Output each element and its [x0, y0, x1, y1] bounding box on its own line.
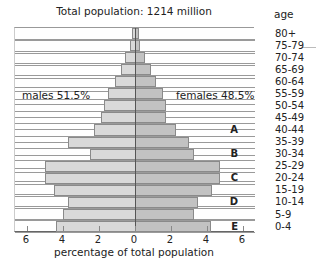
age-label: 40-44: [275, 124, 304, 137]
male-bar: [54, 185, 135, 196]
x-tick-label: 4: [198, 234, 214, 245]
x-tick: [135, 226, 136, 231]
female-bar: [135, 137, 189, 148]
female-bar: [135, 52, 145, 63]
male-bar: [104, 100, 135, 111]
x-tick: [207, 226, 208, 231]
age-label: 20-24: [275, 172, 304, 185]
male-bar: [101, 112, 135, 123]
age-label: 0-4: [275, 221, 291, 234]
row-marker-E: E: [228, 221, 238, 234]
x-tick-label: 2: [90, 234, 106, 245]
row-marker-A: A: [228, 124, 238, 137]
age-label: 65-69: [275, 64, 304, 77]
y-axis-label: age: [274, 8, 294, 20]
age-label: 35-39: [275, 136, 304, 149]
x-tick: [27, 226, 28, 231]
x-tick-label: 0: [126, 234, 142, 245]
male-bar: [45, 173, 135, 184]
row-marker-C: C: [228, 172, 238, 185]
x-tick-label: 6: [18, 234, 34, 245]
female-bar: [135, 185, 212, 196]
female-bar: [135, 112, 166, 123]
female-bar: [135, 173, 220, 184]
female-bar: [135, 124, 176, 135]
male-bar: [94, 124, 135, 135]
x-tick: [99, 226, 100, 231]
female-bar: [135, 88, 163, 99]
male-bar: [115, 76, 135, 87]
x-tick-label: 6: [234, 234, 250, 245]
age-label: 75-79: [275, 40, 304, 53]
zero-axis: [135, 28, 136, 231]
age-label: 80+: [275, 28, 296, 41]
female-bar: [135, 100, 166, 111]
age-label: 25-29: [275, 160, 304, 173]
male-bar: [68, 197, 135, 208]
male-bar: [56, 221, 135, 232]
male-bar: [45, 161, 135, 172]
chart-title: Total population: 1214 million: [14, 5, 254, 17]
age-label: 15-19: [275, 184, 304, 197]
male-bar: [90, 149, 135, 160]
row-marker-D: D: [228, 196, 238, 209]
male-bar: [63, 209, 135, 220]
females-annotation: females 48.5%: [176, 89, 254, 101]
male-bar: [68, 137, 135, 148]
x-axis-label: percentage of total population: [14, 246, 254, 258]
divider: [302, 47, 316, 48]
x-tick: [63, 226, 64, 231]
female-bar: [135, 197, 198, 208]
x-tick-label: 4: [54, 234, 70, 245]
age-label: 55-59: [275, 88, 304, 101]
male-bar: [125, 52, 135, 63]
pyramid-plot: [14, 27, 254, 232]
female-bar: [135, 64, 151, 75]
age-label: 10-14: [275, 196, 304, 209]
female-bar: [135, 209, 194, 220]
female-bar: [135, 76, 156, 87]
age-label: 60-64: [275, 76, 304, 89]
female-bar: [135, 149, 194, 160]
female-bar: [135, 221, 211, 232]
row-marker-B: B: [228, 148, 238, 161]
male-bar: [121, 64, 135, 75]
male-bar: [108, 88, 135, 99]
age-label: 70-74: [275, 52, 304, 65]
males-annotation: males 51.5%: [22, 89, 90, 101]
x-tick: [243, 226, 244, 231]
x-tick: [171, 226, 172, 231]
x-tick-label: 2: [162, 234, 178, 245]
female-bar: [135, 161, 220, 172]
age-label: 30-34: [275, 148, 304, 161]
age-label: 45-49: [275, 112, 304, 125]
age-label: 50-54: [275, 100, 304, 113]
age-label: 5-9: [275, 209, 291, 222]
